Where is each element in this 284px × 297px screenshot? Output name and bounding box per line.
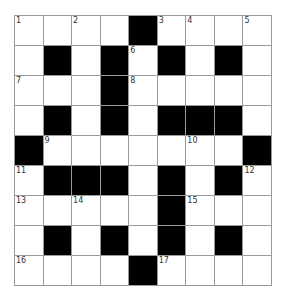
grid-cell[interactable]: 1 — [15, 16, 44, 46]
black-square — [101, 166, 130, 196]
black-square — [129, 256, 158, 286]
grid-cell[interactable] — [72, 76, 101, 106]
clue-number: 14 — [73, 196, 83, 205]
grid-cell[interactable] — [101, 196, 130, 226]
grid-cell[interactable] — [243, 226, 272, 256]
black-square — [44, 166, 73, 196]
grid-cell[interactable] — [44, 76, 73, 106]
grid-cell[interactable]: 12 — [243, 166, 272, 196]
black-square — [158, 46, 187, 76]
grid-cell[interactable] — [72, 136, 101, 166]
clue-number: 16 — [16, 256, 26, 265]
grid-cell[interactable]: 15 — [186, 196, 215, 226]
grid-cell[interactable] — [15, 106, 44, 136]
grid-cell[interactable] — [72, 256, 101, 286]
grid-cell[interactable] — [44, 196, 73, 226]
clue-number: 9 — [45, 136, 50, 145]
grid-cell[interactable]: 8 — [129, 76, 158, 106]
grid-cell[interactable]: 9 — [44, 136, 73, 166]
grid-cell[interactable]: 5 — [243, 16, 272, 46]
grid-cell[interactable] — [72, 46, 101, 76]
black-square — [44, 46, 73, 76]
black-square — [243, 136, 272, 166]
grid-cell[interactable] — [129, 136, 158, 166]
grid-cell[interactable] — [158, 136, 187, 166]
black-square — [44, 106, 73, 136]
grid-cell[interactable] — [215, 136, 244, 166]
grid-cell[interactable] — [215, 76, 244, 106]
grid-cell[interactable] — [15, 46, 44, 76]
clue-number: 10 — [187, 136, 197, 145]
black-square — [158, 106, 187, 136]
black-square — [158, 166, 187, 196]
grid-cell[interactable] — [158, 76, 187, 106]
black-square — [215, 46, 244, 76]
clue-number: 15 — [187, 196, 197, 205]
grid-cell[interactable] — [243, 256, 272, 286]
grid-cell[interactable] — [101, 16, 130, 46]
black-square — [101, 76, 130, 106]
black-square — [158, 226, 187, 256]
black-square — [15, 136, 44, 166]
grid-cell[interactable] — [215, 256, 244, 286]
grid-cell[interactable] — [186, 226, 215, 256]
grid-cell[interactable]: 7 — [15, 76, 44, 106]
grid-cell[interactable] — [186, 76, 215, 106]
clue-number: 4 — [187, 16, 192, 25]
grid-cell[interactable]: 14 — [72, 196, 101, 226]
black-square — [101, 46, 130, 76]
crossword-grid: 1234567891011121314151617 — [14, 15, 272, 286]
grid-cell[interactable] — [243, 46, 272, 76]
grid-cell[interactable]: 11 — [15, 166, 44, 196]
black-square — [44, 226, 73, 256]
clue-number: 6 — [130, 46, 135, 55]
grid-cell[interactable] — [101, 136, 130, 166]
black-square — [158, 196, 187, 226]
clue-number: 1 — [16, 16, 21, 25]
black-square — [101, 226, 130, 256]
black-square — [101, 106, 130, 136]
grid-cell[interactable] — [186, 256, 215, 286]
clue-number: 3 — [159, 16, 164, 25]
clue-number: 2 — [73, 16, 78, 25]
grid-cell[interactable]: 2 — [72, 16, 101, 46]
grid-cell[interactable] — [129, 226, 158, 256]
grid-cell[interactable] — [72, 226, 101, 256]
grid-cell[interactable]: 10 — [186, 136, 215, 166]
grid-cell[interactable] — [101, 256, 130, 286]
grid-cell[interactable] — [44, 256, 73, 286]
black-square — [129, 16, 158, 46]
black-square — [72, 166, 101, 196]
clue-number: 7 — [16, 76, 21, 85]
clue-number: 17 — [159, 256, 169, 265]
grid-cell[interactable] — [186, 46, 215, 76]
grid-cell[interactable]: 13 — [15, 196, 44, 226]
grid-cell[interactable]: 3 — [158, 16, 187, 46]
black-square — [186, 106, 215, 136]
black-square — [215, 166, 244, 196]
grid-cell[interactable] — [215, 16, 244, 46]
grid-cell[interactable] — [243, 76, 272, 106]
clue-number: 12 — [244, 166, 254, 175]
clue-number: 11 — [16, 166, 26, 175]
clue-number: 8 — [130, 76, 135, 85]
black-square — [215, 106, 244, 136]
grid-cell[interactable]: 6 — [129, 46, 158, 76]
grid-cell[interactable] — [129, 106, 158, 136]
grid-cell[interactable]: 17 — [158, 256, 187, 286]
grid-cell[interactable]: 16 — [15, 256, 44, 286]
grid-cell[interactable]: 4 — [186, 16, 215, 46]
grid-cell[interactable] — [243, 196, 272, 226]
clue-number: 5 — [244, 16, 249, 25]
black-square — [215, 226, 244, 256]
grid-cell[interactable] — [15, 226, 44, 256]
grid-cell[interactable] — [215, 196, 244, 226]
grid-cell[interactable] — [243, 106, 272, 136]
clue-number: 13 — [16, 196, 26, 205]
grid-cell[interactable] — [186, 166, 215, 196]
grid-cell[interactable] — [72, 106, 101, 136]
grid-cell[interactable] — [129, 166, 158, 196]
grid-cell[interactable] — [129, 196, 158, 226]
grid-cell[interactable] — [44, 16, 73, 46]
